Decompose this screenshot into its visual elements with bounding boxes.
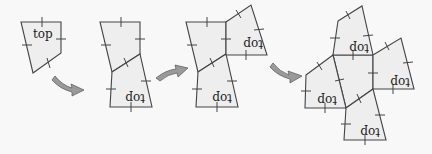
arrow-1-icon [52, 76, 84, 96]
label-top-flipped: top [243, 37, 263, 51]
step-1-shape: top [21, 17, 66, 73]
step-2-shape: top [100, 17, 152, 112]
label-top: top [33, 27, 53, 41]
label-top-flipped: top [212, 91, 232, 105]
arrow-2-icon [156, 65, 188, 81]
label-top-flipped: top [390, 75, 410, 89]
net-diagram: top top top top [0, 0, 432, 154]
step-3-shape: top top [186, 5, 267, 112]
label-top-flipped: top [349, 41, 369, 55]
label-top-flipped: top [360, 125, 380, 139]
label-top-flipped: top [317, 93, 337, 107]
arrow-3-icon [270, 63, 302, 83]
step-4-shape: top top top top [301, 6, 414, 145]
label-top-flipped: top [125, 91, 145, 105]
